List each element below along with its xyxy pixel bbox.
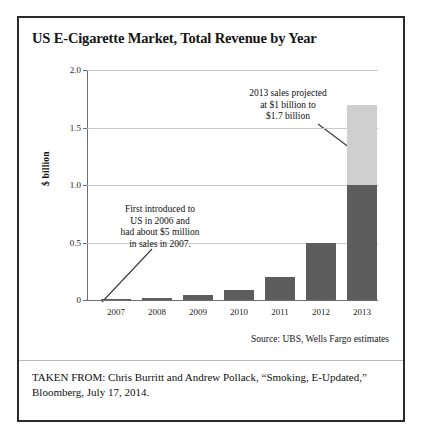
gridline-0: 0 <box>87 300 378 301</box>
x-tick-label-2009: 2009 <box>189 307 207 317</box>
annotation-projection-note: 2013 sales projected at $1 billion to $1… <box>227 88 349 123</box>
bar-segment-actual <box>224 290 254 300</box>
y-tick-label-1.0: 1.0 <box>70 180 81 190</box>
y-tick-label-0: 0 <box>77 295 82 305</box>
bar-segment-projected <box>347 105 377 186</box>
bar-2008: 2008 <box>142 298 172 300</box>
figure-caption: TAKEN FROM: Chris Burritt and Andrew Pol… <box>32 370 390 400</box>
x-tick-label-2008: 2008 <box>148 307 166 317</box>
y-tick-label-1.5: 1.5 <box>70 123 81 133</box>
y-tick-label-2.0: 2.0 <box>70 65 81 75</box>
bar-segment-actual <box>142 298 172 300</box>
gridline-2.0: 2.0 <box>87 70 378 71</box>
y-axis-title: $ billion <box>41 151 51 186</box>
gridline-1.0: 1.0 <box>87 185 378 186</box>
bar-segment-actual <box>101 299 131 301</box>
y-tick-mark <box>83 128 87 129</box>
y-tick-mark <box>83 185 87 186</box>
x-tick-label-2010: 2010 <box>230 307 248 317</box>
y-tick-mark <box>83 300 87 301</box>
bar-2010: 2010 <box>224 290 254 300</box>
bar-2012: 2012 <box>306 243 336 301</box>
bar-2011: 2011 <box>265 277 295 300</box>
chart-title: US E-Cigarette Market, Total Revenue by … <box>32 30 317 47</box>
x-tick-label-2013: 2013 <box>353 307 371 317</box>
x-tick-label-2011: 2011 <box>271 307 289 317</box>
y-tick-label-0.5: 0.5 <box>70 238 81 248</box>
bar-2009: 2009 <box>183 295 213 300</box>
bar-segment-actual <box>306 243 336 301</box>
bar-segment-actual <box>347 185 377 300</box>
bar-segment-actual <box>265 277 295 300</box>
x-tick-label-2007: 2007 <box>107 307 125 317</box>
bar-2013: 2013 <box>347 105 377 301</box>
x-tick-label-2012: 2012 <box>312 307 330 317</box>
figure-frame: US E-Cigarette Market, Total Revenue by … <box>17 16 405 422</box>
gridline-1.5: 1.5 <box>87 128 378 129</box>
caption-divider <box>19 360 403 361</box>
y-tick-mark <box>83 70 87 71</box>
source-note: Source: UBS, Wells Fargo estimates <box>251 334 389 344</box>
y-tick-mark <box>83 243 87 244</box>
annotation-intro-note: First introduced to US in 2006 and had a… <box>101 204 219 250</box>
bar-segment-actual <box>183 295 213 300</box>
bar-2007: 2007 <box>101 299 131 301</box>
